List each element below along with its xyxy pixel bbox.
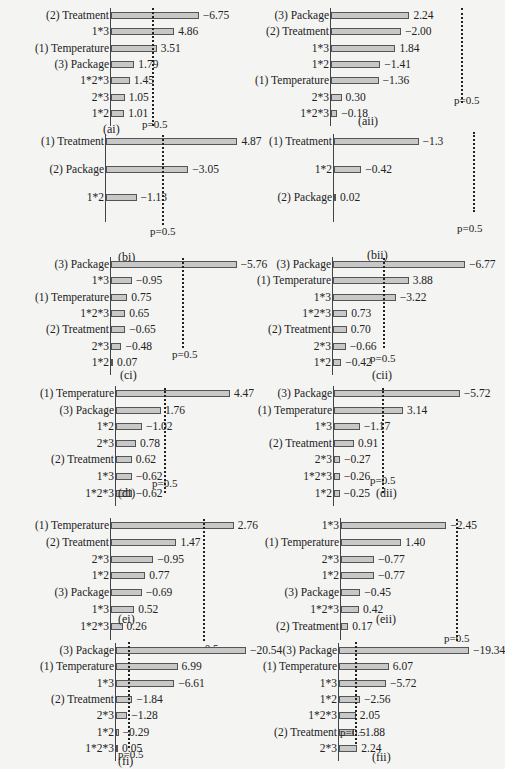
category-label: (3) Package [54, 258, 109, 270]
effect-bar [334, 166, 361, 173]
category-label: (3) Package [59, 404, 114, 416]
threshold-line [182, 258, 184, 348]
category-label: (3) Package [54, 586, 109, 598]
category-label: (1) Temperature [265, 536, 339, 548]
category-label: (3) Package [284, 586, 339, 598]
value-label: 2.24 [413, 9, 433, 21]
effect-bar [111, 359, 113, 366]
threshold-label: p=0.5 [150, 225, 175, 237]
category-label: (2) Treatment [266, 25, 329, 37]
value-label: 0.70 [351, 323, 371, 335]
effect-bar [116, 440, 136, 447]
category-label: 1*2 [87, 191, 104, 203]
category-label: (1) Treatment [41, 135, 104, 147]
value-label: 2.05 [360, 709, 380, 721]
threshold-label: p=0.5 [340, 726, 365, 738]
category-label: 1*3 [320, 677, 337, 689]
category-label: 1*2*3 [85, 487, 114, 499]
value-label: 1.40 [405, 536, 425, 548]
effect-bar [334, 490, 340, 497]
value-label: 3.88 [413, 274, 433, 286]
category-label: (2) Treatment [46, 9, 109, 21]
value-label: 0.07 [117, 356, 137, 368]
value-label: −0.29 [123, 726, 150, 738]
category-label: 2*3 [322, 553, 339, 565]
category-label: 2*3 [92, 91, 109, 103]
value-label: −0.26 [344, 470, 371, 482]
category-label: 1*2*3 [300, 107, 329, 119]
category-label: (2) Treatment [51, 453, 114, 465]
effect-bar [339, 647, 469, 654]
effect-bar [333, 294, 396, 301]
value-label: −0.66 [350, 340, 377, 352]
category-label: 1*2 [315, 163, 332, 175]
value-label: 0.65 [129, 307, 149, 319]
effect-bar [106, 138, 237, 145]
value-label: −0.65 [129, 323, 156, 335]
effect-bar [334, 473, 340, 480]
effect-bar [111, 77, 130, 84]
effect-bar [116, 663, 178, 670]
effect-bar [334, 138, 419, 145]
threshold-line [162, 135, 164, 225]
effect-bar [111, 28, 174, 35]
threshold-line [128, 642, 130, 748]
effect-bar [331, 28, 401, 35]
y-axis-line [333, 134, 334, 222]
value-label: −0.27 [344, 453, 371, 465]
category-label: (1) Temperature [263, 660, 337, 672]
threshold-line [473, 132, 475, 212]
effect-bar [116, 680, 174, 687]
category-label: (2) Treatment [276, 620, 339, 632]
category-label: 1*3 [92, 274, 109, 286]
value-label: 4.87 [241, 135, 261, 147]
category-label: (1) Temperature [257, 274, 331, 286]
value-label: −5.72 [464, 387, 491, 399]
effect-bar [331, 12, 409, 19]
value-label: −0.42 [365, 163, 392, 175]
category-label: (1) Temperature [40, 660, 114, 672]
effect-bar [106, 194, 137, 201]
panel-caption: (eii) [376, 612, 396, 627]
effect-bar [111, 343, 121, 350]
value-label: 0.30 [346, 91, 366, 103]
value-label: −6.61 [178, 677, 205, 689]
category-label: 2*3 [92, 553, 109, 565]
panel-caption: (fi) [118, 754, 133, 769]
effect-bar [116, 473, 132, 480]
effect-bar [339, 680, 386, 687]
category-label: 1*3 [315, 420, 332, 432]
panel-caption: (ci) [120, 368, 137, 383]
category-label: 1*2*3 [85, 742, 114, 754]
effect-bar [111, 45, 157, 52]
value-label: 6.99 [182, 660, 202, 672]
effect-bar [111, 261, 237, 268]
category-label: (2) Package [49, 163, 104, 175]
category-label: (2) Treatment [51, 693, 114, 705]
category-label: 1*3 [92, 603, 109, 615]
category-label: 1*2*3 [80, 307, 109, 319]
effect-bar [334, 456, 340, 463]
category-label: (3) Package [282, 644, 337, 656]
category-label: 1*2 [314, 356, 331, 368]
category-label: 2*3 [320, 742, 337, 754]
effect-bar [111, 572, 145, 579]
category-label: 1*2 [320, 693, 337, 705]
category-label: (2) Treatment [46, 323, 109, 335]
value-label: −2.45 [450, 519, 477, 531]
category-label: 1*2*3 [310, 603, 339, 615]
effect-bar [111, 294, 127, 301]
panel-caption: (cii) [372, 368, 392, 383]
threshold-label: p=0.5 [457, 222, 482, 234]
threshold-line [203, 519, 205, 641]
effect-bar [334, 194, 336, 201]
value-label: −20.54 [250, 644, 282, 656]
value-label: −0.77 [378, 569, 405, 581]
effect-bar [339, 712, 356, 719]
value-label: 1.05 [129, 91, 149, 103]
category-label: (1) Treatment [269, 135, 332, 147]
effect-bar [116, 729, 119, 736]
value-label: −5.72 [390, 677, 417, 689]
effect-bar [111, 110, 124, 117]
category-label: (2) Treatment [269, 437, 332, 449]
